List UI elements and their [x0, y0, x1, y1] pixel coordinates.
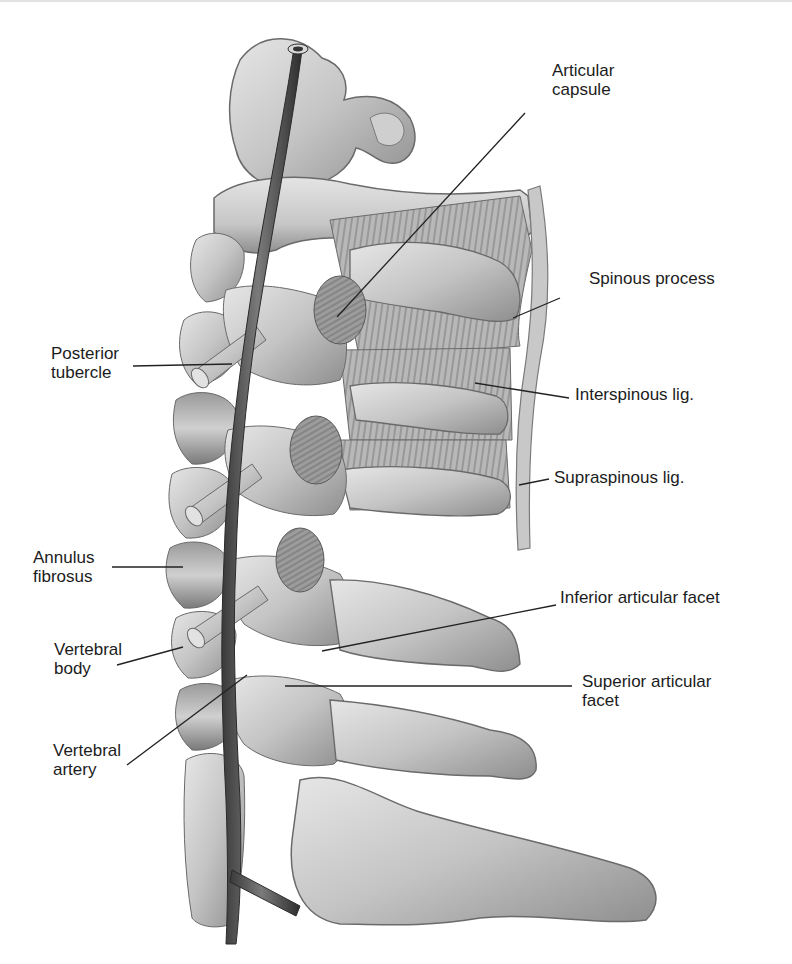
label-line: capsule [552, 80, 614, 99]
label-line: Spinous process [589, 269, 715, 288]
label-spinous-process: Spinous process [589, 269, 715, 288]
label-line: artery [53, 760, 121, 779]
label-posterior-tubercle: Posterior tubercle [51, 344, 119, 382]
label-line: Articular [552, 61, 614, 80]
label-line: fibrosus [33, 567, 94, 586]
lower-spinous-processes [291, 580, 656, 925]
spinous-processes [330, 196, 532, 516]
label-line: Interspinous lig. [575, 385, 694, 404]
label-line: Supraspinous lig. [554, 468, 684, 487]
label-line: Vertebral [54, 640, 122, 659]
label-annulus-fibrosus: Annulus fibrosus [33, 548, 94, 586]
label-line: Superior articular [582, 672, 711, 691]
occipital-bone [230, 39, 415, 190]
label-inferior-articular-facet: Inferior articular facet [560, 588, 720, 607]
label-superior-articular-facet: Superior articular facet [582, 672, 711, 710]
label-line: Inferior articular facet [560, 588, 720, 607]
label-line: facet [582, 691, 711, 710]
label-supraspinous-lig: Supraspinous lig. [554, 468, 684, 487]
label-line: tubercle [51, 363, 119, 382]
label-interspinous-lig: Interspinous lig. [575, 385, 694, 404]
label-line: body [54, 659, 122, 678]
label-line: Annulus [33, 548, 94, 567]
label-vertebral-body: Vertebral body [54, 640, 122, 678]
label-vertebral-artery: Vertebral artery [53, 741, 121, 779]
label-articular-capsule: Articular capsule [552, 61, 614, 99]
label-line: Vertebral [53, 741, 121, 760]
label-line: Posterior [51, 344, 119, 363]
